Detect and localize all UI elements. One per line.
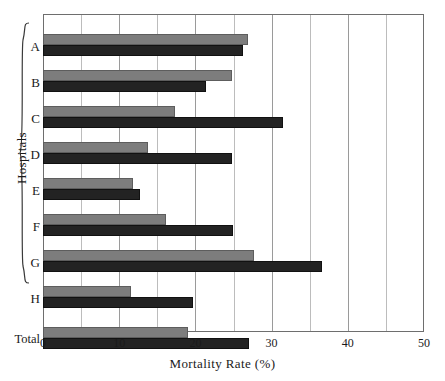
mortality-rate-bar-chart: ABCDEFGHTotal Hospitals 01020304050 Mort… xyxy=(0,0,445,381)
bar-g-series-dark xyxy=(43,261,322,272)
bar-g-series-gray xyxy=(43,250,254,261)
x-tick-20: 20 xyxy=(175,336,215,351)
bar-a-series-gray xyxy=(43,34,248,45)
x-tick-0: 0 xyxy=(23,336,63,351)
x-tick-50: 50 xyxy=(404,336,444,351)
y-axis-title: Hospitals xyxy=(14,118,30,198)
bar-f-series-dark xyxy=(43,225,233,236)
bar-b-series-gray xyxy=(43,70,232,81)
bar-total-series-dark xyxy=(43,338,249,349)
bar-e-series-dark xyxy=(43,189,140,200)
bar-c-series-dark xyxy=(43,117,283,128)
bar-e-series-gray xyxy=(43,178,133,189)
bar-h-series-dark xyxy=(43,297,193,308)
bar-b-series-dark xyxy=(43,81,206,92)
x-tick-40: 40 xyxy=(328,336,368,351)
bar-a-series-dark xyxy=(43,45,243,56)
bar-d-series-gray xyxy=(43,142,148,153)
y-axis-label-h: H xyxy=(0,291,40,307)
x-axis-title: Mortality Rate (%) xyxy=(0,356,445,372)
bar-h-series-gray xyxy=(43,286,131,297)
bar-d-series-dark xyxy=(43,153,232,164)
x-tick-30: 30 xyxy=(252,336,292,351)
bar-f-series-gray xyxy=(43,214,166,225)
x-tick-10: 10 xyxy=(99,336,139,351)
bars-layer xyxy=(43,14,424,332)
bar-c-series-gray xyxy=(43,106,175,117)
